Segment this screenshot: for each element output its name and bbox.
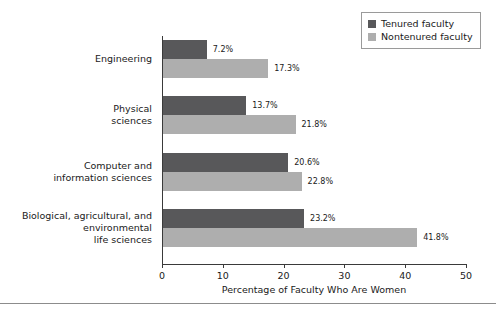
- bar-value-label: 22.8%: [308, 172, 333, 191]
- bar-value-label: 17.3%: [274, 59, 299, 78]
- plot-area: 010203040507.2%17.3%13.7%21.8%20.6%22.8%…: [162, 36, 466, 264]
- bar: [163, 209, 304, 228]
- footer-divider: [0, 303, 496, 304]
- bar-chart: Tenured faculty Nontenured faculty Engin…: [0, 0, 496, 317]
- x-axis-line: [162, 264, 467, 265]
- x-axis-tick-label: 40: [399, 270, 411, 281]
- bar-value-label: 7.2%: [213, 40, 233, 59]
- x-axis-tick-label: 20: [278, 270, 290, 281]
- bar-value-label: 23.2%: [310, 209, 335, 228]
- legend-item-tenured-faculty: Tenured faculty: [368, 17, 473, 30]
- legend-label-tenured-faculty: Tenured faculty: [381, 17, 454, 30]
- bar: [163, 115, 296, 134]
- category-label: Physical sciences: [6, 103, 152, 127]
- bar: [163, 59, 268, 78]
- bar-value-label: 13.7%: [252, 96, 277, 115]
- x-axis-tick-label: 50: [460, 270, 472, 281]
- x-axis-tick: [466, 264, 467, 268]
- bar-value-label: 20.6%: [294, 153, 319, 172]
- category-label: Computer and information sciences: [6, 160, 152, 184]
- bar: [163, 153, 288, 172]
- x-axis-tick: [344, 264, 345, 268]
- x-axis-tick-label: 0: [159, 270, 165, 281]
- category-label: Engineering: [6, 53, 152, 65]
- bar: [163, 96, 246, 115]
- x-axis-tick-label: 10: [217, 270, 229, 281]
- x-axis-tick: [405, 264, 406, 268]
- bar-value-label: 41.8%: [423, 228, 448, 247]
- x-axis-title: Percentage of Faculty Who Are Women: [162, 284, 466, 295]
- bar: [163, 172, 302, 191]
- bar: [163, 40, 207, 59]
- category-label: Biological, agricultural, and environmen…: [6, 210, 152, 246]
- bar-value-label: 21.8%: [302, 115, 327, 134]
- x-axis-tick: [223, 264, 224, 268]
- x-axis-tick-label: 30: [338, 270, 350, 281]
- x-axis-tick: [162, 264, 163, 268]
- x-axis-tick: [284, 264, 285, 268]
- category-label-group: EngineeringPhysical sciencesComputer and…: [0, 36, 152, 264]
- bar: [163, 228, 417, 247]
- legend-swatch-tenured-faculty: [368, 20, 376, 28]
